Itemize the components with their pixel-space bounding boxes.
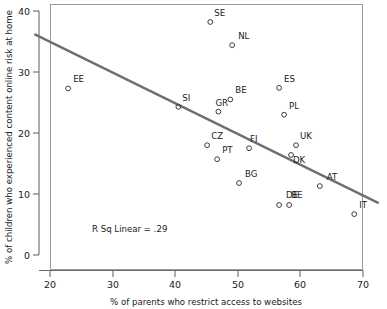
data-point-cz: CZ (205, 131, 223, 147)
data-point-uk: UK (294, 131, 313, 147)
point-label: EE (73, 74, 84, 84)
r-squared-annotation: R Sq Linear = .29 (92, 224, 167, 234)
point-marker (216, 109, 221, 114)
point-marker (66, 86, 71, 91)
point-marker (277, 85, 282, 90)
x-tick-marks (50, 271, 363, 278)
y-axis-title: % of children who experienced content on… (4, 10, 14, 264)
point-marker (282, 112, 287, 117)
data-point-be: BE (228, 85, 247, 101)
point-marker (208, 20, 213, 25)
point-marker (352, 212, 357, 217)
data-point-dk: DK (289, 153, 306, 165)
y-tick-label-30: 30 (18, 67, 30, 78)
point-label: CZ (211, 131, 223, 141)
data-points-layer: EESENLSIBEGRESPLCZPTFIUKDKBGATDEBEIT (66, 8, 368, 217)
data-point-nl: NL (230, 31, 250, 47)
point-marker (294, 143, 299, 148)
point-label: ES (284, 74, 295, 84)
y-tick-label-10: 10 (18, 189, 30, 200)
point-marker (230, 43, 235, 48)
scatter-chart: 40 30 20 10 0 20 30 40 50 60 70 % of par… (0, 0, 387, 309)
point-label: UK (300, 131, 312, 141)
point-label: BE (235, 85, 246, 95)
x-tick-label-70: 70 (357, 279, 369, 290)
x-tick-labels: 20 30 40 50 60 70 (44, 279, 369, 290)
point-marker (317, 184, 322, 189)
x-tick-label-60: 60 (294, 279, 306, 290)
point-marker (287, 203, 292, 208)
data-point-it: IT (352, 200, 368, 216)
data-point-se: SE (208, 8, 225, 24)
y-tick-marks (33, 11, 39, 255)
x-tick-label-40: 40 (169, 279, 181, 290)
data-point-pl: PL (282, 101, 300, 117)
point-label: GR (215, 98, 228, 108)
point-marker (205, 143, 210, 148)
point-label: NL (238, 31, 249, 41)
point-label: SI (182, 93, 190, 103)
data-point-fi: FI (247, 134, 258, 150)
y-tick-label-40: 40 (18, 6, 30, 17)
y-tick-label-0: 0 (24, 250, 30, 261)
point-label: BG (245, 169, 257, 179)
point-label: PT (222, 145, 233, 155)
point-label: PL (289, 101, 299, 111)
x-tick-label-50: 50 (232, 279, 244, 290)
point-marker (237, 181, 242, 186)
point-label: IT (359, 200, 368, 210)
data-point-es: ES (277, 74, 295, 90)
point-label: DK (293, 155, 306, 165)
x-axis-title: % of parents who restrict access to webs… (110, 297, 302, 307)
point-label: AT (327, 172, 338, 182)
point-marker (247, 146, 252, 151)
point-marker (215, 157, 220, 162)
data-point-ee: EE (66, 74, 84, 90)
y-tick-label-20: 20 (18, 128, 30, 139)
point-label: SE (214, 8, 225, 18)
data-point-pt: PT (215, 145, 234, 161)
y-tick-labels: 40 30 20 10 0 (18, 6, 30, 261)
point-marker (228, 97, 233, 102)
x-tick-label-30: 30 (107, 279, 119, 290)
point-marker (277, 203, 282, 208)
chart-canvas: 40 30 20 10 0 20 30 40 50 60 70 % of par… (0, 0, 387, 309)
data-point-gr: GR (215, 98, 228, 114)
data-point-bg: BG (237, 169, 258, 185)
point-label: BE (291, 190, 302, 200)
x-tick-label-20: 20 (44, 279, 56, 290)
point-label: FI (250, 134, 257, 144)
